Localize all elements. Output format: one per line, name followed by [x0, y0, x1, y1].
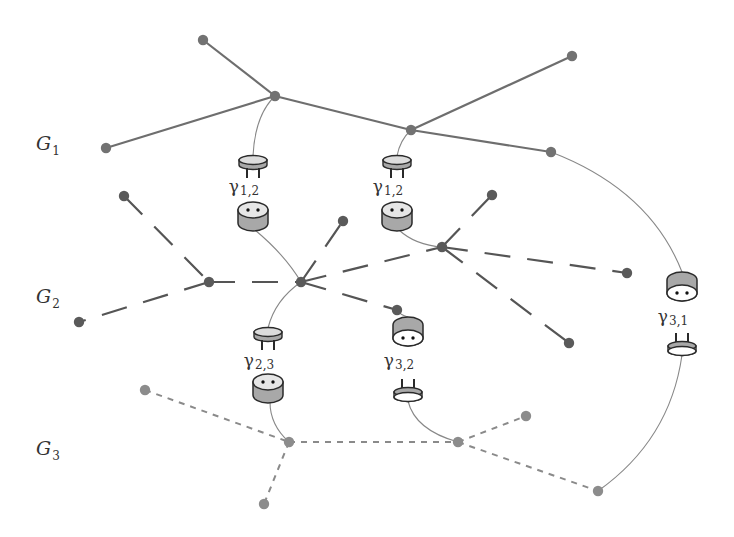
- socket-icon: [667, 272, 697, 301]
- edge-g-h: [124, 196, 209, 282]
- edge-d-e: [411, 56, 572, 130]
- connector-gamma-3-2: γ3,2: [384, 317, 423, 402]
- nodes-g3: [140, 385, 603, 509]
- node-k[interactable]: [74, 317, 84, 327]
- plug-icon: [383, 156, 411, 179]
- node-g[interactable]: [119, 191, 129, 201]
- node-d[interactable]: [406, 125, 416, 135]
- node-b[interactable]: [270, 91, 280, 101]
- connector-label: γ2,3: [244, 350, 274, 372]
- edge-b-c: [106, 96, 275, 148]
- graph-edges: [79, 40, 627, 504]
- plug-icon: [239, 156, 267, 179]
- socket-icon: [382, 202, 412, 231]
- edge-b-d: [275, 96, 411, 130]
- link-upper: [253, 96, 275, 156]
- edge-l-m: [442, 195, 492, 247]
- graph-g2: [79, 195, 627, 343]
- node-n[interactable]: [622, 268, 632, 278]
- graph-g1: [106, 40, 572, 152]
- node-o[interactable]: [564, 338, 574, 348]
- edge-t-v: [458, 442, 598, 491]
- link-lower: [408, 401, 458, 442]
- connector-gamma-3-1: γ3,1: [658, 272, 697, 356]
- node-h[interactable]: [204, 277, 214, 287]
- socket-icon: [253, 374, 283, 403]
- connector-label: γ1,2: [229, 176, 259, 198]
- socket-icon: [393, 317, 423, 346]
- node-c[interactable]: [101, 143, 111, 153]
- link-lower: [598, 355, 682, 491]
- plug-icon: [394, 379, 422, 402]
- node-t[interactable]: [453, 437, 463, 447]
- edge-l-n: [442, 247, 627, 273]
- link-lower: [255, 230, 301, 282]
- connector-label: γ3,1: [658, 306, 688, 328]
- link-lower: [399, 230, 442, 247]
- node-p[interactable]: [392, 305, 402, 315]
- node-l[interactable]: [437, 242, 447, 252]
- node-e[interactable]: [567, 51, 577, 61]
- graph-nodes: [74, 35, 632, 509]
- label-g2: G2: [36, 285, 60, 311]
- plug-icon: [254, 328, 282, 351]
- node-s[interactable]: [259, 499, 269, 509]
- edge-i-j: [301, 221, 343, 282]
- network-diagram: γ1,2γ1,2γ2,3γ3,2γ3,1 G1G2G3: [0, 0, 734, 537]
- connector-gamma-1-2-left: γ1,2: [229, 156, 268, 231]
- graph-labels: G1G2G3: [36, 132, 60, 463]
- node-f[interactable]: [546, 147, 556, 157]
- edge-r-s: [264, 442, 289, 504]
- edge-d-f: [411, 130, 551, 152]
- connector-gamma-2-3: γ2,3: [244, 328, 283, 404]
- node-j[interactable]: [338, 216, 348, 226]
- node-i[interactable]: [296, 277, 306, 287]
- plug-icon: [668, 333, 696, 356]
- edge-a-b: [203, 40, 275, 96]
- edge-i-l: [301, 247, 442, 282]
- node-q[interactable]: [140, 385, 150, 395]
- edge-h-k: [79, 282, 209, 322]
- edge-t-u: [458, 416, 526, 442]
- label-g1: G1: [36, 132, 60, 158]
- connector-label: γ3,2: [384, 350, 414, 372]
- connector-links: [253, 96, 682, 491]
- node-r[interactable]: [284, 437, 294, 447]
- edge-i-p: [301, 282, 397, 310]
- node-v[interactable]: [593, 486, 603, 496]
- label-g3: G3: [36, 437, 60, 463]
- link-upper: [551, 152, 682, 272]
- link-upper: [268, 282, 301, 328]
- node-u[interactable]: [521, 411, 531, 421]
- connector-gamma-1-2-right: γ1,2: [373, 156, 412, 232]
- node-m[interactable]: [487, 190, 497, 200]
- graph-g3: [145, 390, 598, 504]
- socket-icon: [238, 202, 268, 231]
- nodes-g1: [101, 35, 577, 157]
- node-a[interactable]: [198, 35, 208, 45]
- connector-label: γ1,2: [373, 176, 403, 198]
